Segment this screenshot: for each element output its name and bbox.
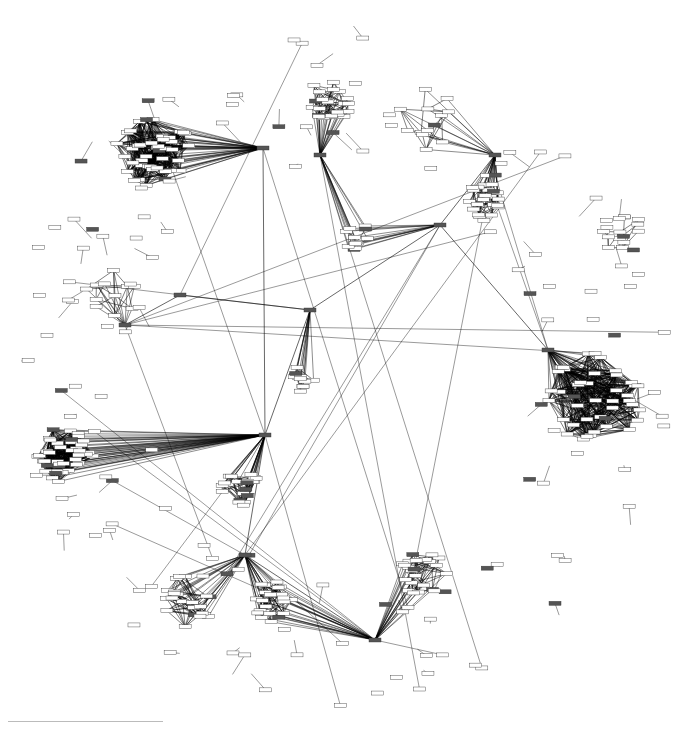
node [632,222,644,226]
node [194,614,206,618]
node [568,394,580,398]
node [177,130,189,134]
node [34,294,46,298]
node [134,143,146,147]
node [624,285,636,289]
node [344,227,356,231]
node [90,305,102,309]
node [125,129,137,133]
node [88,430,100,434]
node [337,641,349,645]
node [610,388,622,392]
node [632,229,644,233]
node [138,215,150,219]
node [552,369,564,373]
node [628,248,640,252]
node [227,651,239,655]
node [259,688,271,692]
node [600,424,612,428]
node [561,432,573,436]
node [252,611,264,615]
node [308,83,320,87]
node [481,566,493,570]
node [495,161,507,165]
node [31,473,43,477]
node [349,82,361,86]
node [106,479,118,483]
node [174,575,186,579]
node [589,371,601,375]
node [658,424,670,428]
node [259,433,271,437]
node [581,435,593,439]
node [163,179,175,183]
node [288,38,300,42]
node [317,583,329,587]
node [633,408,645,412]
node [43,451,55,455]
node [73,453,85,457]
node [602,235,614,239]
node [313,90,325,94]
node [104,529,116,533]
node [186,600,198,604]
node [437,140,449,144]
node [342,96,354,100]
node [349,235,361,239]
node [90,297,102,301]
node [56,497,68,501]
node [41,463,53,467]
node [64,414,76,418]
node [441,572,453,576]
node [278,600,290,604]
node [618,240,630,244]
node [386,124,398,128]
node [301,125,313,129]
node [272,586,284,590]
node [542,348,554,352]
node [32,246,44,250]
node [127,161,139,165]
node [621,393,633,397]
node [439,590,451,594]
node [260,604,272,608]
node [607,399,619,403]
node [41,333,53,337]
node [611,373,623,377]
node [602,246,614,250]
node [39,459,51,463]
node [424,617,436,621]
node [617,246,629,250]
node [198,544,210,548]
node [216,489,228,493]
node [119,323,131,327]
node [166,148,178,152]
node [87,227,99,231]
node [134,588,146,592]
node [327,88,339,92]
node [656,414,668,418]
node [360,227,372,231]
node [397,610,409,614]
node [52,480,64,484]
node [601,225,613,229]
node [504,150,516,154]
node [278,628,290,632]
node [130,236,142,240]
node [492,203,504,207]
node [361,236,373,240]
node [598,229,610,233]
node [484,230,496,234]
node [558,366,570,370]
node [313,114,325,118]
node [658,330,670,334]
node [77,246,89,250]
node [471,202,483,206]
node [271,580,283,584]
node [67,512,79,516]
node [524,477,536,481]
node [265,620,277,624]
node [273,615,285,619]
node [109,294,121,298]
node [66,437,78,441]
